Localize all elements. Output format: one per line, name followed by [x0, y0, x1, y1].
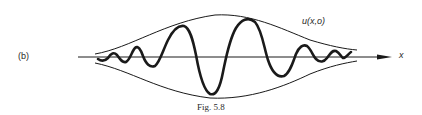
envelope-lower	[95, 61, 357, 98]
figure-caption: Fig. 5.8	[0, 102, 422, 112]
function-label: u(x,o)	[302, 16, 325, 26]
wave-packet-diagram	[0, 0, 422, 115]
wave-packet-figure: (b) u(x,o) x Fig. 5.8	[0, 0, 422, 115]
panel-label: (b)	[18, 51, 29, 61]
axis-label: x	[399, 50, 404, 60]
x-axis-arrow-icon	[377, 55, 392, 60]
